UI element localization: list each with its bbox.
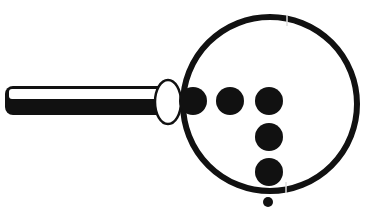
dot-6	[263, 197, 273, 207]
dot-1	[179, 87, 207, 115]
dot-5	[255, 158, 283, 186]
magnifying-glass-figure	[0, 0, 383, 209]
dot-2	[216, 87, 244, 115]
dot-4	[255, 123, 283, 151]
dot-3	[255, 87, 283, 115]
handle-icon	[5, 86, 167, 115]
lens-collar	[155, 80, 181, 124]
